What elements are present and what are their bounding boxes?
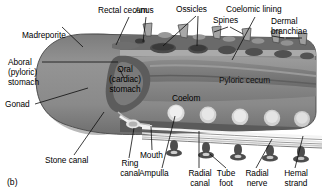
label-tube-foot-line2: foot	[213, 179, 239, 188]
label-radial-canal-line2: canal	[183, 179, 217, 188]
label-ossicles: Ossicles	[176, 5, 207, 14]
label-stone-canal: Stone canal	[45, 156, 88, 165]
panel-label: (b)	[7, 177, 18, 187]
label-hemal-strand-line1: Hemal	[279, 169, 313, 178]
label-pyloric-cecum: Pyloric cecum	[219, 76, 270, 85]
label-ring-canal-line1: Ring	[115, 159, 145, 168]
label-aboral-stomach-line1: Aboral	[8, 58, 32, 67]
label-coelomic-lining: Coelomic lining	[226, 5, 282, 14]
label-anus: Anus	[135, 6, 154, 15]
label-tube-foot-line1: Tube	[213, 169, 239, 178]
label-dermal-branchiae-line2: branchiae	[271, 27, 307, 36]
label-mouth: Mouth	[140, 151, 163, 160]
figure-panel-b: Madreporite Rectal cecum Anus Ossicles S…	[0, 0, 325, 196]
label-radial-canal-line1: Radial	[183, 169, 217, 178]
label-gonad: Gonad	[5, 100, 30, 109]
label-coelom: Coelom	[172, 94, 200, 103]
label-ampulla: Ampulla	[139, 169, 169, 178]
label-radial-nerve-line2: nerve	[240, 179, 274, 188]
label-oral-stomach-line3: stomach	[103, 85, 147, 94]
label-oral-stomach-line2: (cardiac)	[103, 75, 147, 84]
label-aboral-stomach-line2: (pyloric)	[8, 68, 37, 77]
tube-feet-structures	[166, 140, 309, 163]
label-dermal-branchiae-line1: Dermal	[271, 17, 297, 26]
label-aboral-stomach-line3: stomach	[8, 78, 39, 87]
label-spines: Spines	[213, 16, 238, 25]
label-radial-nerve-line1: Radial	[240, 169, 274, 178]
label-madreporite: Madreporite	[22, 31, 66, 40]
label-hemal-strand-line2: strand	[279, 179, 313, 188]
label-oral-stomach-line1: Oral	[103, 65, 147, 74]
